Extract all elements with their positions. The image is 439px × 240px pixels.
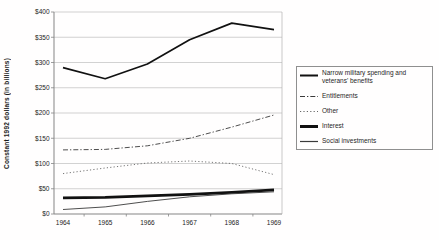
x-tick-label: 1969 [267,219,282,226]
legend-item-narrow-military-spending: Narrow military spending and veterans' b… [299,69,430,89]
y-tick-label: $50 [39,185,50,192]
series-line-dash-dot [63,115,274,150]
series-lines [63,23,274,209]
legend-item-interest: Interest [299,119,430,134]
x-tick-label: 1967 [182,219,197,226]
legend-label: Narrow military spending and veterans' b… [322,69,430,86]
y-tick-label: $200 [35,109,50,116]
y-tick-label: $300 [35,59,50,66]
legend-swatch-dotted-line-icon [299,107,319,116]
x-tick-label: 1965 [98,219,113,226]
x-axis-tick-labels: 196419651966196719681969 [56,214,282,226]
legend-item-entitlements: Entitlements [299,89,430,104]
legend-label: Entitlements [322,92,430,100]
legend-swatch-dash-dot-line-icon [299,92,319,101]
legend-label: Other [322,107,430,115]
x-tick-label: 1964 [56,219,71,226]
series-line-solid-thick [63,190,274,198]
y-tick-label: $100 [35,160,50,167]
x-tick-label: 1968 [225,219,240,226]
legend-swatch-thin-line-icon [299,137,319,146]
legend-label: Interest [322,122,430,130]
legend-swatch-solid-line-icon [299,71,319,80]
y-tick-label: $350 [35,34,50,41]
legend-swatch-thick-line-icon [299,122,319,131]
x-tick-label: 1966 [140,219,155,226]
y-axis-title: Constant 1992 dollars (in billions) [0,12,12,214]
legend-item-social-investments: Social investments [299,134,430,149]
legend-label: Social investments [322,137,430,145]
legend: Narrow military spending and veterans' b… [296,66,433,150]
y-tick-label: $150 [35,135,50,142]
y-axis-tick-labels: $0$50$100$150$200$250$300$350$400 [35,8,50,217]
y-tick-label: $0 [42,210,50,217]
series-line-solid-medium [63,23,274,79]
legend-item-other: Other [299,104,430,119]
y-tick-label: $400 [35,8,50,15]
y-tick-label: $250 [35,84,50,91]
chart: Constant 1992 dollars (in billions) $0$5… [0,0,439,240]
series-line-dotted [63,161,274,175]
